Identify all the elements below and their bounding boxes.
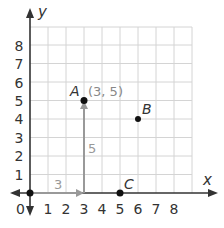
y-tick: 8 <box>15 38 24 54</box>
origin-label: 0 <box>16 201 25 217</box>
point-b-label: B <box>142 101 152 117</box>
y-tick: 1 <box>15 167 24 183</box>
x-tick: 1 <box>44 201 53 217</box>
x-tick-labels: 1 2 3 4 5 6 7 8 <box>44 201 179 217</box>
y-tick-labels: 1 2 3 4 5 6 7 8 <box>15 38 24 183</box>
vertical-move-arrow <box>80 101 88 193</box>
x-tick: 5 <box>116 201 125 217</box>
vertical-move-label: 5 <box>88 141 96 156</box>
y-axis <box>26 8 34 216</box>
horizontal-move-label: 3 <box>54 177 62 192</box>
x-tick: 7 <box>152 201 161 217</box>
y-tick: 3 <box>15 130 24 146</box>
coordinate-plane: y x 0 1 2 3 4 5 6 7 8 1 2 3 4 5 6 7 8 A … <box>0 0 224 228</box>
y-tick: 4 <box>15 111 24 127</box>
y-tick: 5 <box>15 93 24 109</box>
x-tick: 2 <box>62 201 71 217</box>
x-tick: 3 <box>80 201 89 217</box>
x-tick: 6 <box>134 201 143 217</box>
point-a-label: A <box>69 83 80 99</box>
point-a <box>81 97 88 104</box>
y-axis-label: y <box>37 3 48 21</box>
y-tick: 2 <box>15 148 24 164</box>
x-axis-label: x <box>202 171 212 189</box>
point-c-label: C <box>124 176 134 192</box>
point-origin <box>27 190 34 197</box>
x-tick: 8 <box>170 201 179 217</box>
point-c <box>117 190 124 197</box>
y-tick: 6 <box>15 75 24 91</box>
y-tick: 7 <box>15 56 24 72</box>
point-b <box>135 116 141 122</box>
grid-lines <box>30 27 192 193</box>
point-a-coords: (3, 5) <box>88 84 123 99</box>
x-tick: 4 <box>98 201 107 217</box>
